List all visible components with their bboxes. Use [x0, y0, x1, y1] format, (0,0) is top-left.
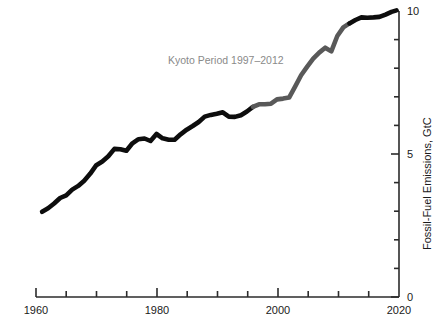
y-tick-label-0: 0	[407, 291, 413, 303]
kyoto-period-annotation: Kyoto Period 1997–2012	[168, 54, 284, 66]
emissions-line-chart: 1960 1980 2000 2020 0 5 10 Fossil-Fuel E…	[0, 0, 439, 327]
y-axis-title: Fossil-Fuel Emissions, GtC	[421, 117, 433, 250]
chart-background	[0, 0, 439, 327]
x-tick-label-2000: 2000	[266, 304, 290, 316]
chart-figure: 1960 1980 2000 2020 0 5 10 Fossil-Fuel E…	[0, 0, 439, 327]
x-tick-label-1960: 1960	[24, 304, 48, 316]
x-tick-label-2020: 2020	[387, 304, 411, 316]
y-tick-label-5: 5	[407, 148, 413, 160]
y-tick-label-10: 10	[407, 5, 419, 17]
x-tick-label-1980: 1980	[145, 304, 169, 316]
